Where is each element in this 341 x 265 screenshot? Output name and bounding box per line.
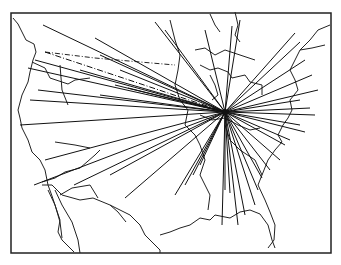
spoke-line	[225, 75, 312, 112]
spoke-line	[225, 60, 305, 112]
spoke-line	[225, 112, 270, 170]
spoke-line	[20, 112, 225, 125]
spoke-line	[80, 70, 225, 112]
spoke-lines	[20, 20, 318, 225]
spoke-line	[45, 112, 225, 160]
spoke-line	[43, 25, 225, 112]
spoke-line	[74, 112, 225, 185]
spoke-line	[95, 38, 225, 112]
us-hub-spoke-map	[0, 0, 341, 265]
spoke-line	[225, 26, 232, 112]
spoke-line	[34, 112, 225, 185]
hub-marker	[222, 109, 228, 115]
